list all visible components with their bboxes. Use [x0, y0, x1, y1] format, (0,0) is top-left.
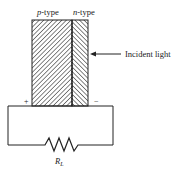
- n-type-region: [72, 20, 88, 106]
- p-type-label: p-type: [36, 7, 59, 17]
- incident-light-arrow: [90, 52, 121, 57]
- minus-terminal-label: −: [94, 97, 99, 106]
- p-type-region: [32, 20, 72, 106]
- n-type-label: n-type: [73, 7, 95, 17]
- pn-junction-diagram: p-type n-type Incident light + − RL: [0, 0, 190, 174]
- circuit-wire: [8, 106, 113, 145]
- load-resistor-label: RL: [54, 156, 64, 167]
- plus-terminal-label: +: [24, 97, 29, 106]
- load-resistor: [41, 138, 82, 151]
- incident-light-label: Incident light: [125, 49, 171, 59]
